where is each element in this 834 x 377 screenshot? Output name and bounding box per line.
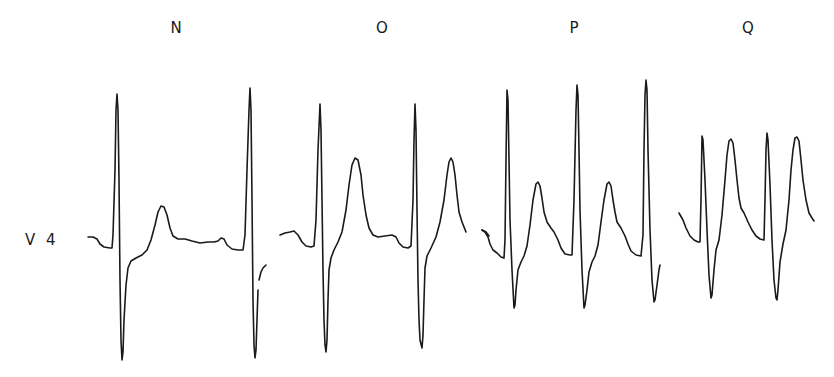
ecg-traces [0, 0, 834, 377]
ecg-trace-o [280, 104, 466, 352]
ecg-trace-n [88, 88, 258, 360]
ecg-trace-q [679, 133, 814, 300]
ecg-figure: N O P Q V 4 [0, 0, 834, 377]
ecg-trace-n-tail [259, 265, 266, 280]
ecg-trace-p [482, 80, 660, 308]
